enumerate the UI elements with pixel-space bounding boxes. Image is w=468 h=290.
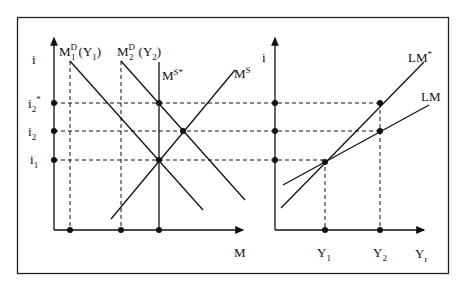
dot — [322, 227, 328, 233]
tick-y1: Y1 — [317, 245, 331, 263]
dot — [67, 227, 73, 233]
dot — [322, 159, 328, 165]
dot — [156, 227, 162, 233]
ms-label: MS — [234, 65, 251, 81]
dot — [156, 100, 162, 106]
ms-curve — [111, 70, 235, 219]
dot — [180, 128, 186, 134]
dot — [272, 157, 278, 163]
right-y-axis-label: i — [262, 50, 266, 65]
dot — [272, 128, 278, 134]
md2-label: MD2(Y2) — [117, 42, 161, 62]
md1-label: MD1(Y1) — [59, 42, 101, 62]
dot — [377, 100, 383, 106]
tick-i2-star: i2* — [28, 94, 41, 114]
tick-i2: i2 — [28, 124, 36, 142]
right-x-axis-label: Yr — [415, 246, 427, 264]
dot — [51, 157, 57, 163]
lm-curve — [283, 105, 429, 185]
lm-star-label: LM* — [408, 49, 433, 65]
ms-star-label: MS* — [162, 67, 184, 83]
dot — [51, 128, 57, 134]
left-y-axis-label: i — [32, 52, 36, 67]
left-x-axis-label: M — [234, 245, 246, 260]
right-panel: i LM* LM Y1 Y2 Yr — [262, 38, 441, 264]
tick-y2: Y2 — [373, 245, 387, 263]
dot — [377, 227, 383, 233]
dot — [377, 128, 383, 134]
dot — [272, 100, 278, 106]
dot — [51, 100, 57, 106]
lm-star-curve — [281, 62, 424, 208]
lm-label: LM — [421, 89, 441, 104]
dot — [118, 227, 124, 233]
left-panel: i i2* i2 i1 MD1(Y1) MD2(Y2) MS* MS M — [28, 38, 380, 260]
dot — [156, 157, 162, 163]
tick-i1: i1 — [30, 152, 38, 170]
money-market-lm-diagram: i i2* i2 i1 MD1(Y1) MD2(Y2) MS* MS M i L… — [0, 0, 468, 290]
